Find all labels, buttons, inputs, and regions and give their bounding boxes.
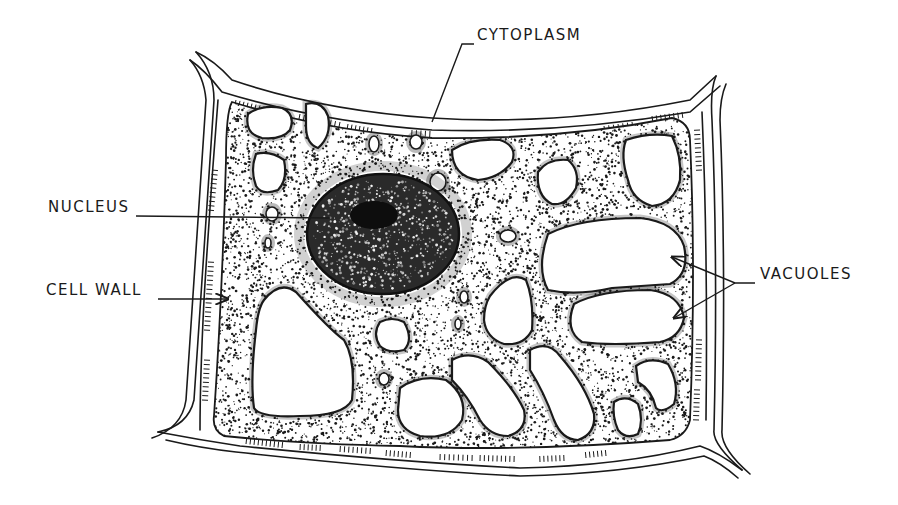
vacuole xyxy=(247,107,292,138)
vacuole xyxy=(253,153,285,192)
small-vacuole xyxy=(455,319,461,329)
vacuole xyxy=(614,398,642,436)
nucleolus xyxy=(350,201,398,229)
label-vacuoles: VACUOLES xyxy=(760,267,852,282)
small-vacuole xyxy=(379,373,389,385)
label-cell-wall: CELL WALL xyxy=(46,283,142,298)
vacuole xyxy=(542,218,685,293)
leader-line-cytoplasm xyxy=(432,44,474,122)
small-vacuole xyxy=(500,230,516,242)
small-vacuole xyxy=(266,207,278,221)
small-vacuole xyxy=(369,136,379,152)
vacuole xyxy=(570,290,684,344)
small-vacuole xyxy=(460,291,468,303)
small-vacuole xyxy=(265,238,271,248)
vacuole xyxy=(376,319,409,351)
cell-illustration xyxy=(0,0,898,505)
vacuole xyxy=(398,378,463,436)
label-cytoplasm: CYTOPLASM xyxy=(477,28,581,43)
label-nucleus: NUCLEUS xyxy=(48,200,130,215)
nucleus xyxy=(299,166,467,302)
small-vacuole xyxy=(410,135,422,149)
plant-cell-diagram: CYTOPLASM NUCLEUS CELL WALL VACUOLES xyxy=(0,0,898,505)
